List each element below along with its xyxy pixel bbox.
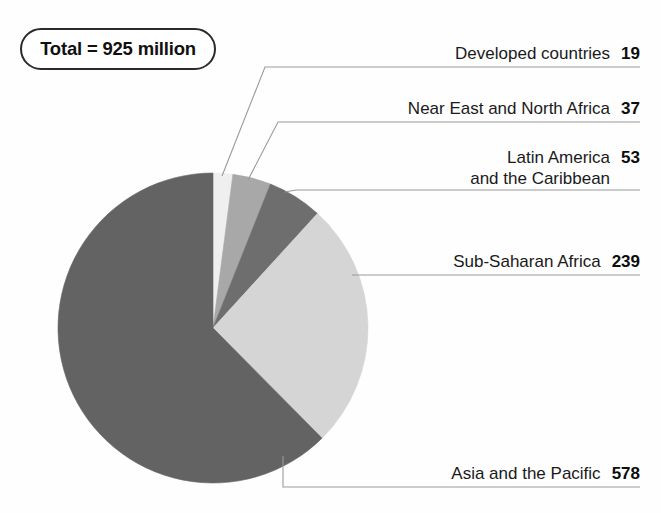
callout-asia-pacific: Asia and the Pacific 578	[330, 456, 640, 484]
callout-label-latin-america-line1: Latin America	[507, 147, 610, 168]
callout-label-developed-countries: Developed countries	[455, 43, 610, 64]
pie-slice-asia-pacific	[58, 173, 322, 483]
callout-latin-america-caribbean: Latin America and the Caribbean 53	[300, 139, 640, 189]
callout-label-near-east-north-africa: Near East and North Africa	[408, 98, 610, 119]
leader-line-latin-america-caribbean	[285, 190, 640, 192]
pie-slice-latin-america-caribbean	[213, 184, 317, 328]
pie-chart-figure: Total = 925 million	[0, 0, 661, 513]
pie-slice-near-east-north-africa	[213, 174, 270, 328]
callout-value-near-east-north-africa: 37	[621, 99, 640, 119]
total-badge-label: Total = 925 million	[40, 38, 196, 60]
callout-sub-saharan-africa: Sub-Saharan Africa 239	[320, 244, 640, 272]
total-badge: Total = 925 million	[20, 28, 216, 70]
callout-near-east-north-africa: Near East and North Africa 37	[280, 91, 640, 119]
callout-label-latin-america-line2: and the Caribbean	[470, 168, 610, 189]
callout-label-sub-saharan-africa: Sub-Saharan Africa	[453, 251, 600, 272]
callout-label-asia-pacific: Asia and the Pacific	[451, 463, 600, 484]
pie-slice-developed-countries	[213, 173, 233, 328]
callout-developed-countries: Developed countries 19	[300, 36, 640, 64]
callout-value-sub-saharan-africa: 239	[612, 252, 640, 272]
callout-value-developed-countries: 19	[621, 44, 640, 64]
callout-value-latin-america-caribbean: 53	[621, 148, 640, 168]
callout-value-asia-pacific: 578	[612, 464, 640, 484]
pie-slices	[58, 173, 368, 483]
leader-lines	[222, 67, 640, 487]
